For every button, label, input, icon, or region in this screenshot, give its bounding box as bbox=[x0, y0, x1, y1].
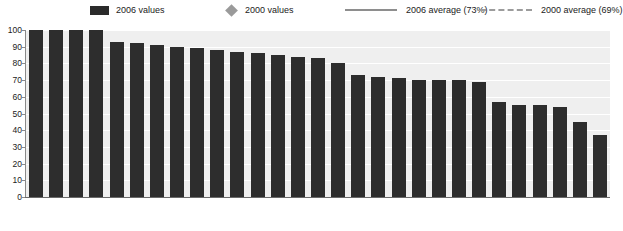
y-axis-tick-label: 70 bbox=[13, 76, 22, 84]
bar-swe[interactable] bbox=[271, 55, 285, 197]
bar-mex[interactable] bbox=[392, 78, 406, 197]
bar-cze[interactable] bbox=[311, 58, 325, 197]
bar-esp[interactable] bbox=[89, 30, 103, 197]
bar-pol[interactable] bbox=[553, 107, 567, 197]
bar-nld[interactable] bbox=[452, 80, 466, 197]
bar-dnk[interactable] bbox=[150, 45, 164, 197]
bar-gbr[interactable] bbox=[190, 48, 204, 197]
y-axis-tick-label: 10 bbox=[13, 176, 22, 184]
bar-jpn[interactable] bbox=[230, 52, 244, 197]
legend-label-2000-values: 2000 values bbox=[245, 5, 294, 15]
dashed-line-swatch-icon bbox=[480, 9, 532, 11]
legend-label-2006-average: 2006 average (73%) bbox=[406, 5, 488, 15]
chart-legend: 2006 values 2000 values 2006 average (73… bbox=[0, 0, 613, 22]
diamond-swatch-icon bbox=[225, 4, 238, 17]
y-axis-tick-label: 20 bbox=[13, 160, 22, 168]
y-axis-tick-label: 30 bbox=[13, 143, 22, 151]
legend-item-2000-values[interactable]: 2000 values bbox=[225, 2, 294, 18]
y-axis-tick-label: 100 bbox=[8, 26, 22, 34]
legend-item-2000-average[interactable]: 2000 average (69%) bbox=[480, 2, 623, 18]
y-axis-tick-label: 40 bbox=[13, 126, 22, 134]
legend-label-2006-values: 2006 values bbox=[116, 5, 165, 15]
bar-nor[interactable] bbox=[170, 47, 184, 197]
y-axis: 1009080706050403020100 bbox=[0, 30, 26, 197]
bar-aut[interactable] bbox=[351, 75, 365, 197]
bar-prt[interactable] bbox=[331, 63, 345, 197]
plot-area bbox=[26, 30, 610, 197]
y-axis-tick-label: 60 bbox=[13, 93, 22, 101]
bar-fin[interactable] bbox=[492, 102, 506, 197]
bar-kor[interactable] bbox=[573, 122, 587, 197]
bar-hun[interactable] bbox=[251, 53, 265, 197]
x-axis-labels bbox=[26, 199, 610, 231]
bar-isl[interactable] bbox=[110, 42, 124, 197]
gridline bbox=[26, 30, 610, 31]
legend-label-2000-average: 2000 average (69%) bbox=[541, 5, 623, 15]
bar-usa[interactable] bbox=[432, 80, 446, 197]
x-axis-line bbox=[25, 197, 610, 198]
bar-deu[interactable] bbox=[210, 50, 224, 197]
bar-grc[interactable] bbox=[533, 105, 547, 197]
legend-item-2006-values[interactable]: 2006 values bbox=[90, 2, 165, 18]
bar-nzl[interactable] bbox=[130, 43, 144, 197]
y-axis-tick-label: 90 bbox=[13, 43, 22, 51]
bar-irl[interactable] bbox=[472, 82, 486, 197]
bar-bel[interactable] bbox=[49, 30, 63, 197]
bar-tur[interactable] bbox=[593, 135, 607, 197]
y-axis-tick-label: 50 bbox=[13, 110, 22, 118]
bar-fra[interactable] bbox=[29, 30, 43, 197]
solid-line-swatch-icon bbox=[345, 9, 397, 11]
bar-aus[interactable] bbox=[412, 80, 426, 197]
bar-che[interactable] bbox=[512, 105, 526, 197]
bar-ita[interactable] bbox=[69, 30, 83, 197]
bar-swatch-icon bbox=[90, 6, 109, 15]
legend-item-2006-average[interactable]: 2006 average (73%) bbox=[345, 2, 488, 18]
bar-svk[interactable] bbox=[371, 77, 385, 197]
bar-lux[interactable] bbox=[291, 57, 305, 197]
y-axis-tick-label: 80 bbox=[13, 59, 22, 67]
